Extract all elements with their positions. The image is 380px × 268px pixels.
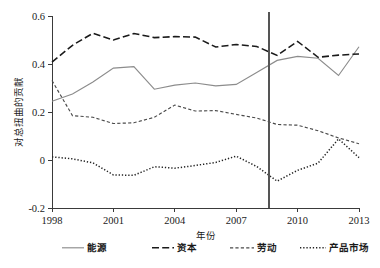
chart-container: 0.60.40.20-0.2199820012004200720102013年份… [0,0,380,268]
line-chart: 0.60.40.20-0.2199820012004200720102013年份… [0,0,380,268]
chart-legend: 能源资本劳动产品市场 [62,242,369,253]
legend-label-1: 能源 [87,242,107,253]
series-line-1 [52,47,359,101]
series-line-3 [52,81,359,144]
axes [48,16,359,212]
legend-label-2: 资本 [177,242,197,253]
legend-label-4: 产品市场 [329,242,369,253]
y-tick-label: -0.2 [28,203,45,214]
x-tick-label: 2001 [103,215,124,226]
y-tick-label: 0.6 [32,11,45,22]
series-lines [52,33,359,181]
x-tick-label: 2004 [164,215,186,226]
series-line-4 [52,139,359,181]
x-axis-title: 年份 [196,230,216,241]
legend-label-3: 劳动 [257,242,277,253]
x-tick-label: 2007 [226,215,247,226]
y-tick-label: 0.2 [32,107,45,118]
y-tick-label: 0.4 [32,59,46,70]
axis-labels: 0.60.40.20-0.2199820012004200720102013年份… [13,11,370,241]
x-tick-label: 2010 [287,215,308,226]
x-tick-label: 2013 [349,215,370,226]
y-tick-label: 0 [40,155,45,166]
y-axis-title: 对总扭曲的贡献 [13,77,24,147]
x-tick-label: 1998 [42,215,63,226]
